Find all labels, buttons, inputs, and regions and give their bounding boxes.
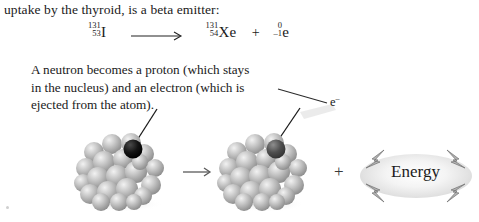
right-nucleus-cluster [213,126,315,212]
left-nucleus-cluster [70,126,172,212]
lightning-bolt-bottom-left [366,184,384,202]
lightning-bolt-bottom-right [447,184,465,202]
figure-canvas: uptake by the thyroid, is a beta emitter… [0,0,479,222]
stray-speck [6,206,9,209]
highlighted-proton-sphere [267,140,286,159]
electron-annotation-charge: – [336,94,340,103]
reaction-plus-sign: + [334,163,344,180]
energy-burst: Energy [352,148,479,204]
reaction-arrow-icon [183,164,213,176]
electron-trajectory-line [278,89,327,103]
nucleon-spheres [217,133,307,211]
highlighted-neutron-sphere [124,140,143,159]
electron-annotation-label: e– [330,96,340,108]
energy-label: Energy [352,162,479,182]
nucleon-spheres [74,133,164,211]
